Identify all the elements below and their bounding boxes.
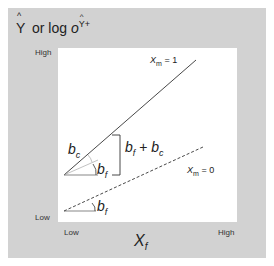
label-bf-upper: bf [97,160,107,180]
sum-plus: + [135,139,151,155]
angle-arc-lower [92,203,95,211]
bc-symbol: b [68,141,76,157]
xm1-subscript: m [156,60,162,67]
sum-b1: b [125,139,133,155]
label-xm-0: Xm = 0 [187,165,214,177]
xm0-subscript: m [193,170,199,177]
angle-arc-upper [93,164,96,175]
sum-b2: b [151,139,159,155]
bf-upper-symbol: b [97,161,105,177]
label-bf-lower: bf [97,197,107,217]
bf-lower-symbol: b [97,198,105,214]
angle-arc-bc [88,155,92,162]
bc-subscript: c [76,150,81,160]
label-bc: bc [68,140,80,160]
label-xm-1: Xm = 1 [150,55,177,67]
bf-upper-subscript: f [105,170,108,180]
sum-s2: c [159,148,164,158]
diagram-lines [0,0,274,266]
xm1-value: = 1 [164,55,177,65]
xm0-value: = 0 [201,165,214,175]
label-bracket-sum: bf + bc [125,138,164,158]
bf-lower-subscript: f [105,207,108,217]
bracket [112,135,120,175]
reference-bf-upper [64,160,98,175]
